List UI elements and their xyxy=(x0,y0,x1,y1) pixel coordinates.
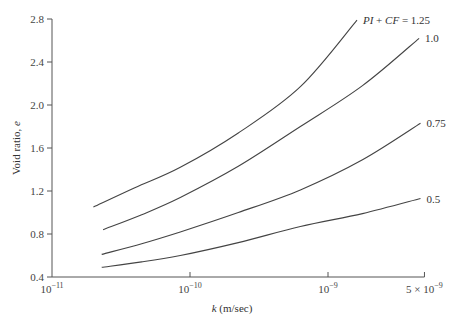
y-tick-label: 0.8 xyxy=(30,228,44,240)
curves xyxy=(93,20,420,267)
y-axis-title-text: Void ratio, xyxy=(10,126,22,175)
y-tick-label: 2.8 xyxy=(30,13,44,25)
x-axis-title: k (m/sec) xyxy=(212,302,253,315)
y-tick-label: 1.6 xyxy=(30,142,44,154)
x-tick-label: 10−10 xyxy=(178,281,202,295)
curve-1.0 xyxy=(103,38,419,229)
y-tick-label: 1.2 xyxy=(30,185,44,197)
curve-0.5 xyxy=(102,199,421,268)
curve-label: PI + CF = 1.25 xyxy=(362,14,431,26)
x-tick-base: 5 × 10 xyxy=(406,283,435,295)
curve-label: 0.5 xyxy=(426,193,440,205)
x-tick-label: 10−11 xyxy=(40,281,63,295)
labels: k (m/sec)Void ratio, ePI + CF = 1.251.00… xyxy=(10,14,446,315)
x-tick-base: 10 xyxy=(318,283,330,295)
x-tick-exponent: −10 xyxy=(189,281,202,290)
curve-label-part: CF xyxy=(385,14,399,26)
curve-label-part: + xyxy=(373,14,385,26)
x-tick-label: 5 × 10−9 xyxy=(406,281,443,295)
curve-0.75 xyxy=(102,123,421,254)
x-tick-exponent: −11 xyxy=(51,281,63,290)
x-tick-exponent: −9 xyxy=(329,281,338,290)
x-tick-label: 10−9 xyxy=(318,281,338,295)
y-tick-label: 2.4 xyxy=(30,56,44,68)
void-ratio-permeability-chart: 0.40.81.21.62.02.42.810−1110−1010−95 × 1… xyxy=(0,0,457,332)
y-axis-title-symbol: e xyxy=(10,121,22,126)
y-axis-title: Void ratio, e xyxy=(10,121,22,175)
y-tick-label: 2.0 xyxy=(30,99,44,111)
curve-label: 0.75 xyxy=(426,117,446,129)
y-tick-label: 0.4 xyxy=(30,271,44,283)
x-tick-base: 10 xyxy=(178,283,190,295)
curve-label: 1.0 xyxy=(425,32,439,44)
x-tick-base: 10 xyxy=(40,283,52,295)
axes: 0.40.81.21.62.02.42.810−1110−1010−95 × 1… xyxy=(30,13,443,295)
x-axis-title-unit: (m/sec) xyxy=(217,302,253,315)
curve-pi-cf-1.25 xyxy=(93,20,357,207)
curve-label-part: = 1.25 xyxy=(399,14,430,26)
x-tick-exponent: −9 xyxy=(434,281,443,290)
